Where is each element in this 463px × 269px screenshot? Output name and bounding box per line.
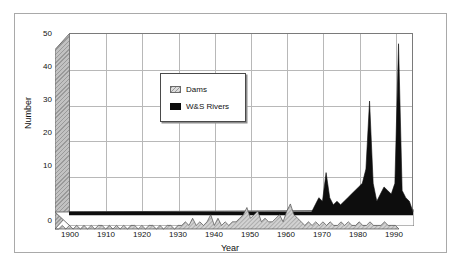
gridline-y-10 (70, 177, 412, 178)
legend-item-dams[interactable]: Dams (170, 83, 207, 95)
xtick-1910: 1910 (89, 230, 123, 239)
xtick-1940: 1940 (197, 230, 231, 239)
gridline-x-1990 (396, 34, 397, 212)
xtick-1950: 1950 (233, 230, 267, 239)
legend-swatch-ws-rivers-icon (170, 103, 181, 110)
gridline-x-1910 (106, 34, 107, 212)
gridline-y-20 (70, 141, 412, 142)
legend-swatch-dams-icon (170, 86, 181, 93)
plot-side-wall (55, 33, 70, 229)
xtick-1920: 1920 (125, 230, 159, 239)
gridline-x-1960 (287, 34, 288, 212)
gridline-x-1920 (142, 34, 143, 212)
gridline-x-1970 (323, 34, 324, 212)
xtick-1930: 1930 (161, 230, 195, 239)
ytick-10: 10 (26, 161, 52, 170)
xtick-1960: 1960 (269, 230, 303, 239)
ytick-40: 40 (26, 62, 52, 71)
ytick-50: 50 (26, 29, 52, 38)
y-axis-title: Number (23, 83, 33, 143)
plot-area (69, 33, 413, 212)
legend-label-dams: Dams (186, 85, 207, 94)
legend-label-ws-rivers: W&S Rivers (186, 102, 229, 111)
chart-screenshot: 50 40 30 20 10 0 1900 1910 1920 1930 194… (0, 0, 463, 269)
xtick-1900: 1900 (53, 230, 87, 239)
gridline-x-1980 (360, 34, 361, 212)
x-axis-title: Year (190, 243, 270, 253)
gridline-y-40 (70, 70, 412, 71)
legend-item-ws-rivers[interactable]: W&S Rivers (170, 100, 229, 112)
ytick-0: 0 (26, 216, 52, 225)
chart-legend: Dams W&S Rivers (160, 73, 246, 122)
xtick-1980: 1980 (341, 230, 375, 239)
gridline-x-1940 (215, 34, 216, 212)
xtick-1970: 1970 (305, 230, 339, 239)
xtick-1990: 1990 (377, 230, 411, 239)
gridline-x-1950 (251, 34, 252, 212)
gridline-x-1930 (179, 34, 180, 212)
